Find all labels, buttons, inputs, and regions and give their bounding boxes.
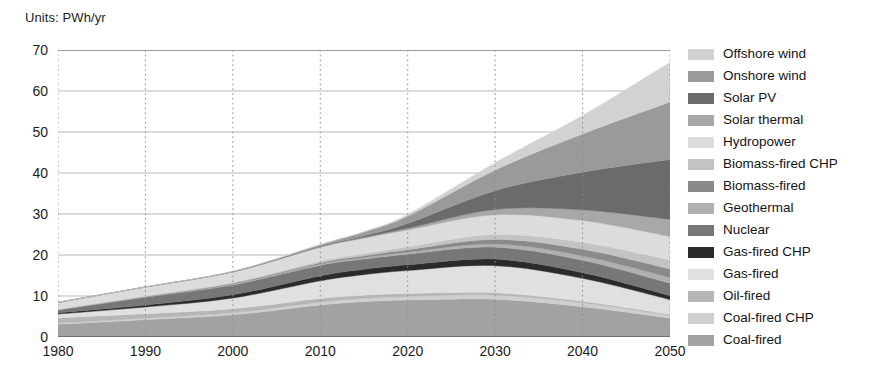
area-layers <box>58 62 670 337</box>
legend-item[interactable]: Onshore wind <box>688 65 878 87</box>
legend-swatch-icon <box>688 291 714 302</box>
y-axis-tick-labels: 010203040506070 <box>0 50 48 337</box>
x-axis-tick: 2040 <box>567 343 598 359</box>
y-axis-tick: 10 <box>14 288 48 304</box>
y-axis-tick: 60 <box>14 83 48 99</box>
legend-swatch-icon <box>688 159 714 170</box>
legend-item-label: Onshore wind <box>723 69 806 83</box>
x-axis-tick: 2010 <box>305 343 336 359</box>
legend-swatch-icon <box>688 335 714 346</box>
x-axis-tick-labels: 19801990200020102020203020402050 <box>58 343 670 365</box>
legend-item[interactable]: Coal-fired CHP <box>688 307 878 329</box>
legend-item-label: Geothermal <box>723 201 794 215</box>
legend-item[interactable]: Biomass-fired CHP <box>688 153 878 175</box>
legend-item-label: Gas-fired CHP <box>723 245 811 259</box>
x-axis-tick: 1980 <box>42 343 73 359</box>
legend-item[interactable]: Solar thermal <box>688 109 878 131</box>
legend-swatch-icon <box>688 137 714 148</box>
legend-item-label: Gas-fired <box>723 267 779 281</box>
chart-legend: Offshore windOnshore windSolar PVSolar t… <box>688 43 878 351</box>
y-axis-tick: 40 <box>14 165 48 181</box>
legend-item-label: Solar PV <box>723 91 776 105</box>
legend-swatch-icon <box>688 203 714 214</box>
chart-figure: Units: PWh/yr 010203040506070 1980199020… <box>0 0 880 380</box>
legend-swatch-icon <box>688 269 714 280</box>
legend-swatch-icon <box>688 247 714 258</box>
legend-item[interactable]: Geothermal <box>688 197 878 219</box>
x-axis-tick: 2000 <box>217 343 248 359</box>
legend-item-label: Offshore wind <box>723 47 806 61</box>
legend-item-label: Solar thermal <box>723 113 803 127</box>
legend-item[interactable]: Biomass-fired <box>688 175 878 197</box>
x-axis-tick: 2020 <box>392 343 423 359</box>
y-axis-tick: 50 <box>14 124 48 140</box>
legend-swatch-icon <box>688 313 714 324</box>
x-axis-tick: 2030 <box>480 343 511 359</box>
legend-item[interactable]: Gas-fired <box>688 263 878 285</box>
legend-item[interactable]: Gas-fired CHP <box>688 241 878 263</box>
x-axis-tick: 2050 <box>654 343 685 359</box>
legend-swatch-icon <box>688 71 714 82</box>
legend-item-label: Coal-fired <box>723 333 782 347</box>
plot-area <box>58 50 670 337</box>
y-axis-tick: 70 <box>14 42 48 58</box>
y-axis-tick: 20 <box>14 247 48 263</box>
legend-item[interactable]: Coal-fired <box>688 329 878 351</box>
legend-item[interactable]: Offshore wind <box>688 43 878 65</box>
legend-item-label: Biomass-fired <box>723 179 806 193</box>
legend-item[interactable]: Hydropower <box>688 131 878 153</box>
legend-item-label: Oil-fired <box>723 289 770 303</box>
legend-swatch-icon <box>688 181 714 192</box>
legend-item[interactable]: Nuclear <box>688 219 878 241</box>
legend-swatch-icon <box>688 115 714 126</box>
legend-item-label: Nuclear <box>723 223 770 237</box>
legend-swatch-icon <box>688 225 714 236</box>
stacked-area-plot <box>58 50 670 337</box>
x-axis-tick: 1990 <box>130 343 161 359</box>
legend-item-label: Biomass-fired CHP <box>723 157 838 171</box>
legend-swatch-icon <box>688 93 714 104</box>
legend-item-label: Hydropower <box>723 135 796 149</box>
units-label: Units: PWh/yr <box>25 10 106 25</box>
legend-item-label: Coal-fired CHP <box>723 311 814 325</box>
legend-item[interactable]: Solar PV <box>688 87 878 109</box>
legend-item[interactable]: Oil-fired <box>688 285 878 307</box>
y-axis-tick: 30 <box>14 206 48 222</box>
legend-swatch-icon <box>688 49 714 60</box>
